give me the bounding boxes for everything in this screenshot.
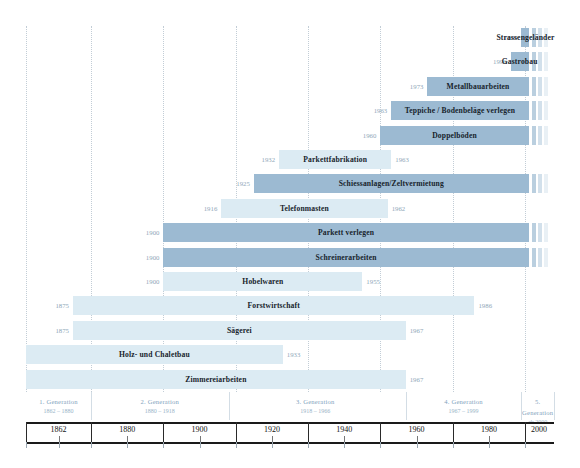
timeline-bar[interactable]: Parkettfabrikation (279, 150, 391, 169)
generation-separator (521, 392, 522, 420)
continuation-segment (544, 223, 548, 242)
generation-name: 4. Generation (406, 394, 522, 407)
bar-end-year: 1986 (474, 296, 492, 315)
timeline-row: Holz- und Chaletbau1933 (26, 345, 554, 364)
bar-continuation (532, 223, 548, 242)
axis-minor-tick-below (489, 442, 490, 448)
timeline-bar[interactable]: Hobelwaren (163, 272, 362, 291)
timeline-row: Metallbauarbeiten1973 (26, 77, 554, 96)
axis-line-top (26, 422, 554, 424)
timeline-bar[interactable]: Strassengeländer (521, 28, 529, 47)
bar-continuation (532, 126, 548, 145)
timeline-bar[interactable]: Schiessanlagen/Zeltvermietung (254, 174, 529, 193)
continuation-segment (544, 248, 548, 267)
axis-line-bottom (26, 442, 554, 444)
generation-block[interactable]: 2. Generation1880 – 1918 (91, 394, 228, 420)
continuation-segment (532, 223, 536, 242)
timeline-bar[interactable]: Teppiche / Bodenbeläge verlegen (391, 101, 528, 120)
continuation-segment (544, 77, 548, 96)
timeline-bar[interactable]: Zimmereiarbeiten (26, 370, 406, 389)
bar-continuation (532, 77, 548, 96)
axis-minor-tick-below (59, 442, 60, 448)
continuation-segment (532, 101, 536, 120)
bar-label: Hobelwaren (163, 272, 362, 291)
axis-tick-below-2000 (525, 442, 526, 448)
generation-separator (554, 392, 555, 420)
bar-end-year: 1955 (362, 272, 380, 291)
continuation-segment (538, 174, 542, 193)
axis-tick-label-1880: 1880 (119, 425, 135, 434)
generation-separator (229, 392, 230, 420)
continuation-segment (532, 77, 536, 96)
bar-start-year: 1875 (55, 321, 73, 340)
plot-area: Strassengeländer1999Gastrobau1996Metallb… (26, 26, 554, 392)
axis-minor-tick-below (344, 442, 345, 448)
bar-label: Strassengeländer (521, 28, 529, 47)
timeline-row: Zimmereiarbeiten1967 (26, 370, 554, 389)
axis-tick-below-1920 (236, 442, 237, 448)
generation-separator (406, 392, 407, 420)
continuation-segment (532, 174, 536, 193)
timeline-bar[interactable]: Forstwirtschaft (73, 296, 474, 315)
timeline-bar[interactable]: Doppelböden (380, 126, 528, 145)
timeline-row: Hobelwaren19001955 (26, 272, 554, 291)
bar-end-year: 1963 (391, 150, 409, 169)
axis-tick-label-1900: 1900 (192, 425, 208, 434)
axis-tick-label-1862: 1862 (51, 425, 67, 434)
timeline-bar[interactable]: Sägerei (73, 321, 406, 340)
generation-years: 1862 – 1880 (26, 407, 91, 416)
bar-start-year: 1925 (236, 174, 254, 193)
continuation-segment (532, 126, 536, 145)
axis-tick-1980 (453, 422, 454, 442)
bar-start-year: 1900 (146, 248, 164, 267)
bar-label: Holz- und Chaletbau (26, 345, 283, 364)
bar-label: Teppiche / Bodenbeläge verlegen (391, 101, 528, 120)
generation-years: 1880 – 1918 (91, 407, 228, 416)
bar-start-year: 1963 (374, 101, 392, 120)
bar-start-year: 1875 (55, 296, 73, 315)
generation-separator (91, 392, 92, 420)
axis-tick-1900 (163, 422, 164, 442)
timeline-row: Sägerei18751967 (26, 321, 554, 340)
generation-name: 3. Generation (229, 394, 403, 407)
bar-start-year: 1900 (146, 223, 164, 242)
axis-tick-below-1960 (380, 442, 381, 448)
timeline-bar[interactable]: Telefonmasten (221, 199, 387, 218)
axis-minor-tick-below (417, 442, 418, 448)
axis-tick-below-1900 (163, 442, 164, 448)
axis-tick-below-1940 (308, 442, 309, 448)
bar-start-year: 1973 (410, 77, 428, 96)
continuation-segment (538, 52, 542, 71)
timeline-bar[interactable]: Parkett verlegen (163, 223, 528, 242)
bar-continuation (532, 101, 548, 120)
timeline-bar[interactable]: Metallbauarbeiten (427, 77, 528, 96)
axis-tick-below-1980 (453, 442, 454, 448)
axis-tick-1920 (236, 422, 237, 442)
timeline-bar[interactable]: Schreinerarbeiten (163, 248, 528, 267)
bar-label: Schreinerarbeiten (163, 248, 528, 267)
axis-minor-tick-below (127, 442, 128, 448)
bar-label: Schiessanlagen/Zeltvermietung (254, 174, 529, 193)
bar-label: Gastrobau (511, 52, 529, 71)
bar-continuation (532, 174, 548, 193)
bar-start-year: 1900 (146, 272, 164, 291)
generations-band: 1. Generation1862 – 18802. Generation188… (26, 394, 554, 420)
generation-years: 1967 – 1999 (406, 407, 522, 416)
continuation-segment (532, 248, 536, 267)
generation-block[interactable]: 1. Generation1862 – 1880 (26, 394, 91, 420)
generation-block[interactable]: 4. Generation1967 – 1999 (406, 394, 522, 420)
bar-end-year: 1967 (406, 370, 424, 389)
timeline-row: Forstwirtschaft18751986 (26, 296, 554, 315)
timeline-row: Teppiche / Bodenbeläge verlegen1963 (26, 101, 554, 120)
timeline-row: Strassengeländer1999 (26, 28, 554, 47)
bar-label: Forstwirtschaft (73, 296, 474, 315)
axis-tick-1940 (308, 422, 309, 442)
axis-tick-label-1980: 1980 (481, 425, 497, 434)
axis-tick-label-1940: 1940 (336, 425, 352, 434)
timeline-bar[interactable]: Gastrobau (511, 52, 529, 71)
generation-block[interactable]: 3. Generation1918 – 1966 (229, 394, 403, 420)
continuation-segment (538, 223, 542, 242)
timeline-row: Doppelböden1960 (26, 126, 554, 145)
timeline-bar[interactable]: Holz- und Chaletbau (26, 345, 283, 364)
generation-block[interactable]: 5. Generationab 2000 (521, 394, 554, 420)
